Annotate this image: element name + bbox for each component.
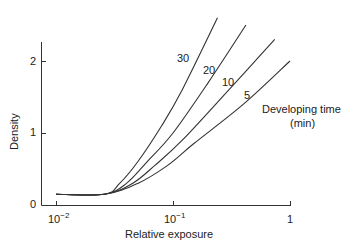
legend-unit: (min) xyxy=(290,118,315,129)
x-tick-label-0.1: 10−1 xyxy=(164,212,185,225)
y-tick-label-1: 1 xyxy=(22,127,36,138)
legend-title: Developing time xyxy=(262,104,341,115)
axes xyxy=(42,42,292,206)
y-tick-label-0: 0 xyxy=(22,199,36,210)
curves xyxy=(56,18,290,195)
x-axis-title: Relative exposure xyxy=(125,229,213,240)
curve-label-20: 20 xyxy=(203,65,215,76)
y-axis-title: Density xyxy=(9,113,20,150)
curve-label-5: 5 xyxy=(244,90,250,101)
y-tick-label-2: 2 xyxy=(22,56,36,67)
curve-30-min xyxy=(56,18,217,195)
curve-label-10: 10 xyxy=(222,77,234,88)
x-tick-label-1: 1 xyxy=(287,212,293,225)
x-tick-label-0.01: 10−2 xyxy=(48,212,69,225)
curve-10-min xyxy=(56,39,275,195)
curve-5-min xyxy=(56,61,290,195)
characteristic-curve-chart: 0 1 2 Density 10−2 10−1 1 Relative expos… xyxy=(0,0,350,248)
curve-label-30: 30 xyxy=(177,53,189,64)
